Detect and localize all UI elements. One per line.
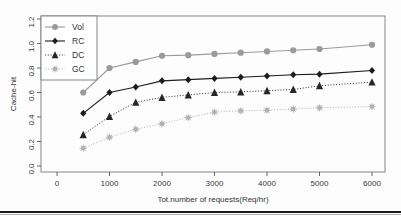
series-dc (80, 78, 376, 138)
data-point-marker (80, 131, 87, 138)
data-series-group (79, 42, 377, 153)
legend-label: GC (72, 64, 85, 74)
data-point-marker (290, 47, 296, 53)
x-tick-label: 5000 (311, 179, 329, 188)
x-tick-label: 0 (55, 179, 60, 188)
x-axis: 0100020003000400050006000 (55, 172, 382, 188)
data-point-marker (184, 113, 193, 122)
data-point-marker (369, 67, 375, 74)
data-point-marker (368, 102, 377, 111)
data-point-marker (133, 59, 139, 65)
legend-label: DC (72, 50, 84, 60)
data-point-marker (316, 46, 322, 52)
data-point-marker (238, 74, 244, 81)
data-point-marker (158, 94, 165, 101)
data-point-marker (238, 50, 244, 56)
data-point-marker (236, 106, 245, 115)
y-tick-label: 1.0 (27, 40, 36, 52)
x-tick-label: 3000 (206, 179, 224, 188)
data-point-marker (210, 108, 219, 117)
series-line (83, 82, 372, 135)
x-tick-label: 2000 (153, 179, 171, 188)
y-tick-label: 0.0 (27, 163, 36, 175)
x-axis-title: Tot.number of requests(Req/hr) (157, 195, 268, 204)
x-tick-label: 4000 (258, 179, 276, 188)
y-tick-label: 0.2 (27, 138, 36, 150)
data-point-marker (52, 24, 58, 30)
data-point-marker (237, 88, 244, 95)
data-point-marker (106, 65, 112, 71)
y-tick-label: 0.4 (27, 114, 36, 126)
data-point-marker (264, 72, 270, 79)
axis-labels: Tot.number of requests(Req/hr)Cache-hit (9, 76, 269, 204)
data-point-marker (316, 71, 322, 78)
data-point-marker (133, 83, 139, 90)
y-axis-title: Cache-hit (9, 76, 18, 111)
page-margin (0, 215, 401, 224)
data-point-marker (289, 105, 298, 114)
data-point-marker (80, 110, 86, 117)
y-tick-label: 0.8 (27, 65, 36, 77)
data-point-marker (79, 144, 88, 153)
data-point-marker (106, 112, 113, 119)
legend-box (41, 16, 97, 80)
series-gc (79, 102, 377, 152)
y-tick-label: 1.2 (27, 16, 36, 28)
chart-legend: VolRCDCGC (41, 16, 97, 80)
data-point-marker (369, 42, 375, 48)
data-point-marker (290, 71, 296, 78)
legend-label: RC (72, 36, 84, 46)
data-point-marker (80, 89, 86, 95)
y-axis: 0.00.20.40.60.81.01.2 (27, 16, 41, 175)
chart-figure: 0.00.20.40.60.81.01.2 010002000300040005… (0, 0, 401, 224)
legend-label: Vol (72, 22, 84, 32)
data-point-marker (158, 119, 167, 128)
cache-hit-line-chart: 0.00.20.40.60.81.01.2 010002000300040005… (0, 0, 401, 224)
x-tick-label: 6000 (363, 179, 381, 188)
data-point-marker (264, 48, 270, 54)
page-scan-rule (0, 211, 401, 213)
series-vol (80, 42, 375, 96)
x-tick-label: 1000 (101, 179, 119, 188)
data-point-marker (159, 77, 165, 84)
y-tick-label: 0.6 (27, 89, 36, 101)
data-point-marker (159, 53, 165, 59)
data-point-marker (368, 78, 375, 85)
data-point-marker (263, 106, 272, 115)
data-point-marker (290, 86, 297, 93)
data-point-marker (316, 82, 323, 89)
data-point-marker (106, 89, 112, 96)
data-point-marker (131, 125, 140, 134)
data-point-marker (51, 65, 59, 73)
series-line (83, 107, 372, 149)
data-point-marker (185, 76, 191, 83)
data-point-marker (315, 103, 324, 112)
data-point-marker (132, 98, 139, 105)
data-point-marker (211, 75, 217, 82)
data-point-marker (185, 52, 191, 58)
data-point-marker (105, 133, 114, 142)
data-point-marker (211, 51, 217, 57)
